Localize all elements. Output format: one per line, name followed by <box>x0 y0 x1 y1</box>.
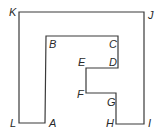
vertex-label-j: J <box>147 9 154 21</box>
vertex-label-g: G <box>107 96 116 108</box>
vertex-label-k: K <box>9 6 17 18</box>
figure-outline <box>19 12 144 124</box>
vertex-label-h: H <box>106 117 114 129</box>
vertex-label-c: C <box>109 38 117 50</box>
vertex-label-a: A <box>48 117 56 129</box>
vertex-label-b: B <box>49 38 56 50</box>
vertex-label-d: D <box>109 56 117 68</box>
vertex-label-l: L <box>10 117 16 129</box>
vertex-label-e: E <box>78 56 86 68</box>
figure-svg: K J B C E D F G L A H I <box>0 0 161 134</box>
vertex-label-f: F <box>77 88 85 100</box>
rectilinear-figure: K J B C E D F G L A H I <box>0 0 161 134</box>
vertex-label-i: I <box>148 117 151 129</box>
